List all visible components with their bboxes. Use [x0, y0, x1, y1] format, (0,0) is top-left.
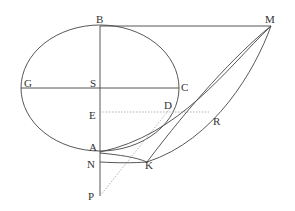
label-A: A [89, 142, 97, 153]
curve-NK [100, 162, 147, 163]
label-E: E [89, 110, 96, 121]
line-MK [147, 26, 271, 162]
label-B: B [96, 14, 103, 25]
label-K: K [145, 160, 153, 171]
label-R: R [213, 116, 220, 127]
label-N: N [87, 159, 95, 170]
label-G: G [24, 78, 32, 89]
dotted-line-PD [100, 106, 172, 196]
curve-AK [100, 153, 147, 162]
diagram-canvas [0, 0, 295, 211]
label-D: D [164, 100, 172, 111]
label-P: P [88, 191, 94, 202]
curve-MRK [147, 26, 271, 162]
label-C: C [181, 82, 188, 93]
label-M: M [265, 14, 275, 25]
ellipse-diagram: B M G S C E D R A N K P [0, 0, 295, 211]
label-S: S [90, 78, 96, 89]
